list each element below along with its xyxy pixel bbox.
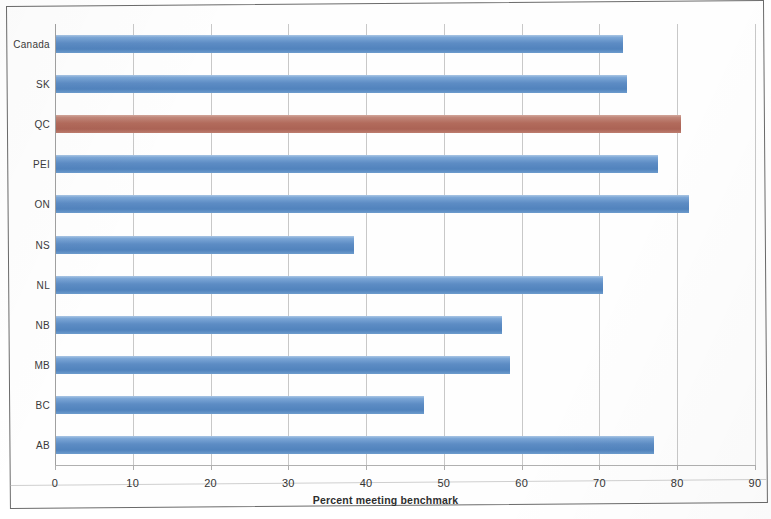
category-label-on: ON — [2, 199, 50, 210]
x-tick-label-30: 30 — [282, 477, 295, 489]
x-tick-label-10: 10 — [126, 477, 139, 489]
bar-fill-bc — [55, 396, 424, 414]
category-label-pei: PEI — [2, 159, 50, 170]
category-label-mb: MB — [2, 359, 50, 370]
x-tick-label-90: 90 — [749, 477, 762, 489]
x-tick-label-70: 70 — [593, 477, 606, 489]
bar-sk — [55, 75, 755, 93]
x-axis-title: Percent meeting benchmark — [0, 494, 771, 506]
bar-fill-nl — [55, 276, 603, 294]
bar-mb — [55, 356, 755, 374]
category-label-nl: NL — [2, 279, 50, 290]
category-axis-labels: CanadaSKQCPEIONNSNLNBMBBCAB — [0, 0, 50, 519]
bar-fill-on — [55, 195, 689, 213]
category-label-sk: SK — [2, 79, 50, 90]
x-tick-label-20: 20 — [204, 477, 217, 489]
category-label-bc: BC — [2, 399, 50, 410]
x-tick-label-40: 40 — [360, 477, 373, 489]
tick-mark-30 — [288, 465, 289, 470]
tick-mark-0 — [55, 465, 56, 470]
x-tick-label-80: 80 — [671, 477, 684, 489]
bar-fill-nb — [55, 316, 502, 334]
plot-area — [55, 24, 755, 465]
tick-mark-60 — [522, 465, 523, 470]
bar-pei — [55, 155, 755, 173]
bar-fill-canada — [55, 35, 623, 53]
bar-fill-sk — [55, 75, 627, 93]
tick-mark-10 — [133, 465, 134, 470]
gridline-90 — [755, 24, 756, 465]
tick-mark-40 — [366, 465, 367, 470]
category-axis-line — [55, 465, 756, 466]
bar-fill-mb — [55, 356, 510, 374]
x-tick-label-60: 60 — [515, 477, 528, 489]
bar-nb — [55, 316, 755, 334]
bar-fill-pei — [55, 155, 658, 173]
bar-fill-ns — [55, 236, 354, 254]
bar-fill-ab — [55, 436, 654, 454]
category-label-ns: NS — [2, 239, 50, 250]
category-label-qc: QC — [2, 119, 50, 130]
bar-nl — [55, 276, 755, 294]
category-label-nb: NB — [2, 319, 50, 330]
category-label-ab: AB — [2, 439, 50, 450]
bar-chart: CanadaSKQCPEIONNSNLNBMBBCAB 010203040506… — [0, 0, 771, 519]
bar-bc — [55, 396, 755, 414]
bar-on — [55, 195, 755, 213]
bar-ab — [55, 436, 755, 454]
bar-canada — [55, 35, 755, 53]
bar-qc — [55, 115, 755, 133]
value-axis-line — [55, 24, 56, 466]
tick-mark-80 — [677, 465, 678, 470]
x-tick-label-50: 50 — [437, 477, 450, 489]
tick-mark-50 — [444, 465, 445, 470]
x-tick-label-0: 0 — [52, 477, 58, 489]
tick-mark-90 — [755, 465, 756, 470]
category-label-canada: Canada — [2, 39, 50, 50]
tick-mark-70 — [599, 465, 600, 470]
bar-ns — [55, 236, 755, 254]
bar-fill-qc — [55, 115, 681, 133]
tick-mark-20 — [211, 465, 212, 470]
